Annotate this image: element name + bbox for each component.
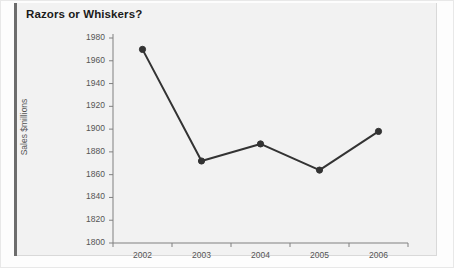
data-point-marker bbox=[316, 167, 322, 173]
chart-canvas bbox=[0, 0, 455, 269]
data-point-marker bbox=[257, 141, 263, 147]
data-point-marker bbox=[139, 46, 145, 52]
data-point-marker bbox=[198, 158, 204, 164]
series-line-sales bbox=[143, 49, 379, 170]
chart-screenshot: Razors or Whiskers? Sales $millions 1800… bbox=[0, 0, 455, 269]
data-point-marker bbox=[375, 128, 381, 134]
